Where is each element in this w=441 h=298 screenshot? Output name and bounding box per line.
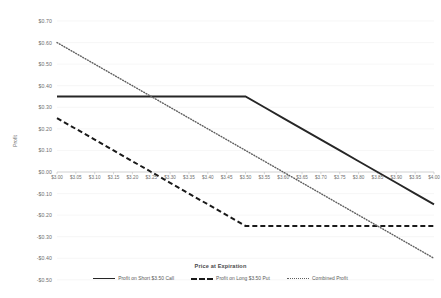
legend-swatch-dotted-line-icon [287, 278, 309, 279]
legend-label-short-call: Profit on Short $3.50 Call [118, 276, 174, 281]
legend-swatch-solid-line-icon [93, 278, 115, 279]
legend-label-combined: Combined Profit [312, 276, 348, 281]
legend-item-long-put[interactable]: Profit on Long $3.50 Put [191, 276, 270, 281]
legend-label-long-put: Profit on Long $3.50 Put [216, 276, 270, 281]
y-tick-label: $0.10 [14, 147, 52, 153]
options-profit-chart: $0.70$0.60$0.50$0.40$0.30$0.20$0.10$0.00… [0, 0, 441, 298]
y-tick-label: $0.20 [14, 126, 52, 132]
y-tick-label: $0.70 [14, 18, 52, 24]
y-tick-label: $0.40 [14, 83, 52, 89]
x-axis-title: Price at Expiration [0, 263, 441, 269]
y-tick-label: $0.50 [14, 61, 52, 67]
y-tick-label: -$0.40 [14, 255, 52, 261]
legend-swatch-dashed-line-icon [191, 278, 213, 280]
legend-item-short-call[interactable]: Profit on Short $3.50 Call [93, 276, 174, 281]
y-tick-label: -$0.30 [14, 234, 52, 240]
y-tick-label: $0.00 [14, 169, 52, 175]
x-tick-label: $4.00 [422, 175, 441, 180]
plot-area [0, 0, 441, 298]
y-tick-label: -$0.10 [14, 191, 52, 197]
y-tick-label: $0.60 [14, 40, 52, 46]
y-tick-label: -$0.20 [14, 212, 52, 218]
y-axis-title: Profit [12, 121, 18, 161]
chart-legend: Profit on Short $3.50 Call Profit on Lon… [0, 276, 441, 281]
legend-item-combined[interactable]: Combined Profit [287, 276, 348, 281]
y-tick-label: $0.30 [14, 104, 52, 110]
